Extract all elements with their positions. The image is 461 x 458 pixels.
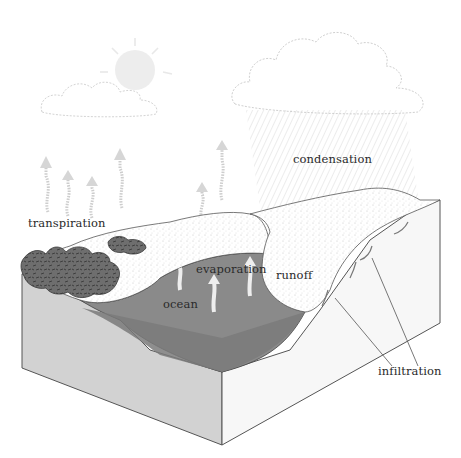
up-arrow-icon: [213, 282, 214, 312]
evaporation-label: evaporation: [196, 262, 267, 276]
up-arrow-icon: [67, 178, 69, 216]
infiltration-label: infiltration: [378, 364, 442, 378]
transpiration-arrows: [46, 148, 223, 220]
up-arrow-icon: [221, 148, 223, 200]
up-arrow-icon: [46, 166, 48, 212]
condensation-label: condensation: [293, 152, 372, 166]
up-arrow-icon: [120, 158, 122, 208]
up-arrow-icon: [91, 184, 93, 218]
transpiration-label: transpiration: [28, 216, 106, 230]
arrow-heads: [40, 140, 228, 192]
sun-icon: [100, 38, 172, 90]
up-arrow-icon: [179, 268, 180, 290]
rain-cloud-icon: [232, 32, 423, 113]
runoff-label: runoff: [276, 268, 312, 282]
water-cycle-diagram: condensation transpiration evaporation r…: [0, 0, 461, 458]
ocean-label: ocean: [163, 297, 198, 311]
